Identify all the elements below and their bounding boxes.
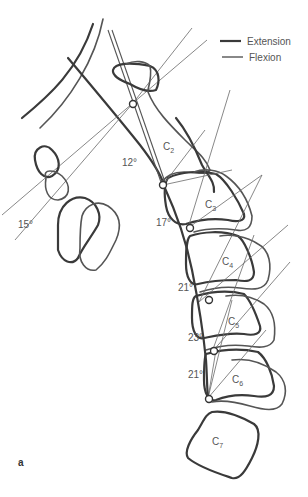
c6-vertebra: C6 (204, 350, 285, 410)
vertebra-label-c4: C4 (222, 256, 233, 269)
angle-label-c5-c6: 21° (188, 369, 203, 380)
panel-label: a (18, 457, 24, 468)
reference-lines (2, 28, 207, 240)
atlas-outlines (35, 146, 119, 270)
rotation-center-c3 (187, 225, 194, 232)
angle-label-c4-c5: 23° (188, 332, 203, 343)
legend-flexion-label: Flexion (249, 52, 281, 63)
rotation-center-c5 (211, 348, 218, 355)
vertebra-label-c7: C7 (212, 436, 223, 449)
occiput-outline (22, 19, 103, 128)
angle-label-c2-c3: 17° (156, 217, 171, 228)
legend-extension-label: Extension (247, 36, 291, 47)
angle-label-c1-c2: 12° (122, 157, 137, 168)
rotation-center-c1 (130, 101, 137, 108)
vertebra-label-c6: C6 (232, 374, 243, 387)
vertebra-label-c2: C2 (163, 141, 174, 154)
rotation-center-c4 (206, 297, 213, 304)
angle-label-c3-c4: 21° (178, 282, 193, 293)
vertebra-label-c3: C3 (205, 199, 216, 212)
legend: Extension Flexion (220, 36, 291, 63)
c7-vertebra: C7 (187, 412, 259, 479)
rotation-center-c2 (160, 182, 167, 189)
cervical-spine-diagram: Extension Flexion C2 (0, 0, 308, 497)
rotation-center-c6 (206, 396, 213, 403)
angle-label-occ-c1: 15° (18, 219, 33, 230)
c4-vertebra: C4 (186, 232, 270, 292)
